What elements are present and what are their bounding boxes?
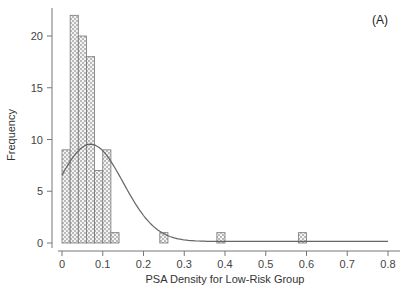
y-tick-label: 15 [31,82,43,94]
x-axis: 00.10.20.30.40.50.60.70.8 [58,251,400,270]
x-tick-label: 0.1 [95,258,110,270]
x-tick-label: 0.8 [380,258,395,270]
y-axis: 05101520 [31,8,52,249]
y-tick-label: 20 [31,30,43,42]
x-tick-label: 0 [59,258,65,270]
x-axis-label: PSA Density for Low-Risk Group [146,273,305,285]
y-tick-label: 0 [37,237,43,249]
histogram-chart: 05101520 00.10.20.30.40.50.60.70.8 PSA D… [0,0,406,293]
histogram-bar [103,150,111,243]
histogram-bar [95,171,103,243]
histogram-bar [86,57,94,243]
x-tick-label: 0.4 [217,258,232,270]
x-tick-label: 0.7 [340,258,355,270]
x-tick-label: 0.3 [177,258,192,270]
histogram-bars [62,15,307,243]
y-tick-label: 5 [37,185,43,197]
x-tick-label: 0.5 [258,258,273,270]
x-tick-label: 0.2 [136,258,151,270]
histogram-bar [78,36,86,243]
panel-label: (A) [372,13,388,27]
y-axis-label: Frequency [5,109,17,161]
histogram-bar [111,233,119,243]
histogram-bar [70,15,78,243]
x-tick-label: 0.6 [299,258,314,270]
y-tick-label: 10 [31,134,43,146]
